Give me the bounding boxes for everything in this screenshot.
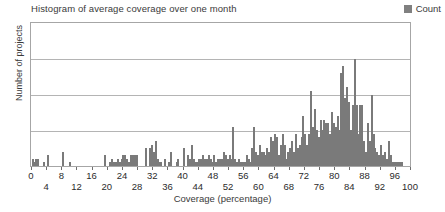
x-axis-tick-label: 60 bbox=[253, 181, 264, 192]
x-axis-tick-label: 48 bbox=[208, 170, 219, 181]
x-axis-tick-label: 16 bbox=[86, 170, 97, 181]
x-axis-tick-label: 44 bbox=[192, 181, 203, 192]
bars-layer bbox=[31, 23, 410, 166]
x-axis-tick-label: 84 bbox=[344, 181, 355, 192]
x-axis-tick-label: 68 bbox=[283, 181, 294, 192]
x-axis-tick-label: 12 bbox=[71, 181, 82, 192]
x-axis-tick-label: 80 bbox=[329, 170, 340, 181]
histogram-bar bbox=[104, 155, 106, 166]
histogram-bar bbox=[37, 159, 39, 166]
x-axis-tick-label: 32 bbox=[147, 170, 158, 181]
x-axis-tick-label: 0 bbox=[28, 170, 33, 181]
histogram-bar bbox=[164, 159, 166, 166]
histogram-bar bbox=[62, 152, 64, 166]
x-axis-tick-label: 64 bbox=[268, 170, 279, 181]
x-axis-tick-label: 72 bbox=[299, 170, 310, 181]
histogram-bar bbox=[145, 148, 147, 166]
x-axis-tick-label: 100 bbox=[402, 181, 418, 192]
histogram-bar bbox=[136, 155, 138, 166]
legend-label-count: Count bbox=[416, 3, 441, 14]
x-axis-tick-label: 4 bbox=[44, 181, 49, 192]
x-axis-tick-label: 28 bbox=[132, 181, 143, 192]
y-axis-title: Number of projects bbox=[14, 3, 24, 123]
x-axis-tick-label: 20 bbox=[102, 181, 113, 192]
x-axis-tick-label: 24 bbox=[117, 170, 128, 181]
x-axis-tick-label: 36 bbox=[162, 181, 173, 192]
x-axis-tick-label: 96 bbox=[390, 170, 401, 181]
histogram-bar bbox=[401, 162, 403, 166]
histogram-bar bbox=[43, 162, 45, 166]
x-axis-tick-label: 52 bbox=[223, 181, 234, 192]
x-axis-tick-label: 92 bbox=[374, 181, 385, 192]
x-axis-tick-label: 76 bbox=[314, 181, 325, 192]
histogram-chart: Histogram of average coverage over one m… bbox=[0, 0, 445, 212]
x-axis-tick-labels: 0481216202428323640444852566064687276808… bbox=[30, 170, 411, 194]
histogram-bar bbox=[170, 152, 172, 166]
chart-title: Histogram of average coverage over one m… bbox=[31, 3, 237, 14]
plot-area bbox=[30, 22, 411, 167]
histogram-bar bbox=[69, 162, 71, 166]
chart-legend: Count bbox=[404, 3, 441, 14]
x-axis-tick-label: 56 bbox=[238, 170, 249, 181]
histogram-bar bbox=[160, 162, 162, 166]
x-axis-title: Coverage (percentage) bbox=[0, 193, 445, 204]
x-axis-tick-label: 88 bbox=[359, 170, 370, 181]
x-axis-tick-label: 8 bbox=[59, 170, 64, 181]
histogram-bar bbox=[183, 148, 185, 166]
legend-swatch-count-icon bbox=[404, 5, 412, 13]
histogram-bar bbox=[47, 155, 49, 166]
histogram-bar bbox=[177, 159, 179, 166]
x-axis-tick-label: 40 bbox=[177, 170, 188, 181]
